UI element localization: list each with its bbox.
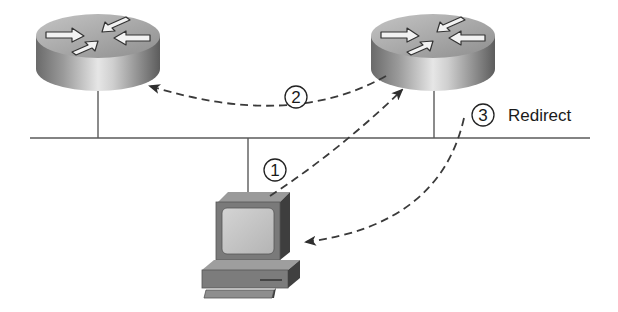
network-diagram: 1 2 3 Redirect: [0, 0, 618, 312]
step-2-number: 2: [291, 88, 300, 107]
step-3-badge: 3: [472, 104, 494, 126]
step-1-badge: 1: [264, 159, 286, 181]
step-3-number: 3: [478, 106, 487, 125]
workstation-icon: [202, 192, 300, 298]
step-1-number: 1: [270, 161, 279, 180]
step-3-label: Redirect: [508, 106, 572, 125]
router-right-icon: [371, 14, 495, 91]
router-left-icon: [36, 14, 160, 91]
step-3-arrow: [306, 118, 464, 242]
step-2-arrow: [150, 76, 386, 106]
step-2-badge: 2: [285, 86, 307, 108]
